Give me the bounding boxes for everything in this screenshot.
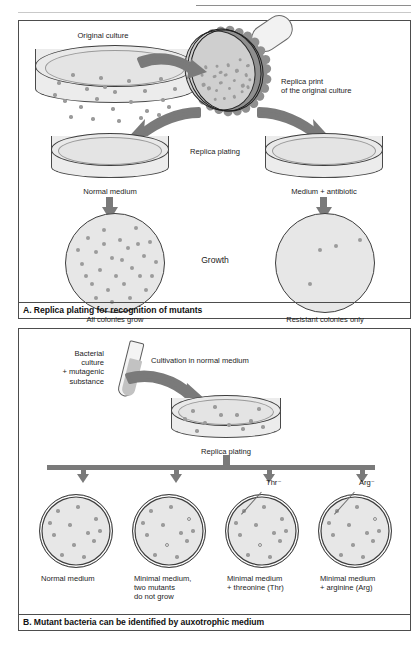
colony bbox=[106, 288, 110, 292]
distribution-arrow-bar bbox=[41, 461, 391, 493]
dish-4 bbox=[318, 494, 392, 568]
label-growth: Growth bbox=[201, 256, 229, 265]
colony bbox=[127, 79, 130, 82]
colony bbox=[102, 242, 106, 246]
colony bbox=[165, 543, 169, 547]
page-number: 93 bbox=[402, 0, 411, 2]
label-all-colonies-grow: All colonies grow bbox=[87, 315, 144, 324]
colony bbox=[82, 555, 85, 558]
caption-divider bbox=[18, 302, 411, 303]
colony bbox=[134, 226, 138, 230]
colony bbox=[84, 274, 88, 278]
colony bbox=[76, 505, 79, 508]
colony bbox=[334, 244, 338, 248]
label-resistant-only: Resistant colonies only bbox=[286, 315, 364, 324]
colony bbox=[52, 533, 55, 536]
colony bbox=[365, 531, 368, 534]
header-rule-secondary bbox=[18, 12, 411, 13]
colony bbox=[79, 105, 82, 108]
label-normal-medium-a: Normal medium bbox=[83, 187, 137, 196]
caption-divider bbox=[18, 614, 411, 615]
colony bbox=[278, 539, 281, 542]
colony bbox=[191, 529, 194, 532]
dish-all-colonies-grow bbox=[65, 213, 165, 313]
label-medium-antibiotic: Medium + antibiotic bbox=[291, 187, 357, 196]
dish-agar bbox=[272, 137, 376, 165]
colony bbox=[145, 533, 148, 536]
colony bbox=[227, 423, 230, 426]
colony bbox=[69, 115, 72, 118]
colony bbox=[128, 296, 132, 300]
dish-medium-antibiotic bbox=[265, 133, 383, 181]
header-rule bbox=[196, 5, 411, 6]
colony bbox=[102, 228, 106, 232]
colony bbox=[195, 429, 198, 432]
colony bbox=[173, 87, 176, 90]
colony bbox=[234, 521, 237, 524]
colony bbox=[129, 100, 132, 103]
label-dish-3: Minimal medium + threonine (Thr) bbox=[227, 574, 284, 592]
colony bbox=[347, 523, 350, 526]
colony bbox=[249, 419, 252, 422]
panel-b-auxotrophic-medium: Bacterial culture + mutagenic substance … bbox=[18, 328, 411, 631]
arrow-to-stamp bbox=[137, 53, 211, 87]
label-replica-plating-a: Replica plating bbox=[190, 147, 240, 156]
colony bbox=[284, 529, 287, 532]
colony bbox=[187, 517, 191, 521]
colony bbox=[91, 117, 94, 120]
colony bbox=[191, 409, 194, 412]
colony bbox=[213, 405, 216, 408]
dish-resistant-colonies bbox=[275, 213, 375, 313]
colony bbox=[241, 427, 244, 430]
colony bbox=[56, 509, 59, 512]
panel-a-caption: A. Replica plating for recognition of mu… bbox=[23, 305, 202, 315]
colony bbox=[272, 531, 275, 534]
colony bbox=[94, 517, 97, 520]
dish-agar bbox=[58, 137, 162, 165]
colony bbox=[161, 523, 164, 526]
colony bbox=[94, 250, 98, 254]
colony bbox=[57, 81, 60, 84]
label-cultivation: Cultivation in normal medium bbox=[151, 356, 249, 365]
colony bbox=[358, 238, 362, 242]
label-dish-2: Minimal medium, two mutants do not grow bbox=[134, 574, 191, 602]
colony bbox=[60, 553, 63, 556]
colony bbox=[169, 505, 172, 508]
colony bbox=[371, 539, 374, 542]
bar-horizontal bbox=[47, 465, 375, 470]
colony bbox=[103, 85, 106, 88]
colony bbox=[110, 256, 114, 260]
colony bbox=[308, 282, 312, 286]
colony bbox=[150, 274, 154, 278]
colony bbox=[136, 242, 140, 246]
panel-b-caption: B. Mutant bacteria can be identified by … bbox=[23, 617, 264, 627]
label-original-culture: Original culture bbox=[77, 31, 128, 40]
colony bbox=[327, 521, 330, 524]
colony bbox=[94, 296, 98, 300]
colony bbox=[154, 260, 158, 264]
colony bbox=[268, 555, 271, 558]
colony bbox=[361, 555, 364, 558]
colony bbox=[377, 529, 380, 532]
dish-normal-medium bbox=[51, 133, 169, 181]
colony bbox=[219, 413, 222, 416]
branch-head-1 bbox=[77, 474, 89, 483]
colony bbox=[114, 274, 118, 278]
colony bbox=[68, 523, 71, 526]
colony bbox=[90, 282, 94, 286]
colony bbox=[203, 421, 206, 424]
colony bbox=[262, 505, 265, 508]
dish-cultivation bbox=[171, 395, 281, 441]
branch-head-2 bbox=[170, 474, 182, 483]
colony bbox=[141, 521, 144, 524]
dish-3 bbox=[225, 494, 299, 568]
colony bbox=[86, 531, 89, 534]
colony bbox=[76, 248, 80, 252]
colony bbox=[238, 533, 241, 536]
colony bbox=[161, 98, 164, 101]
colony bbox=[148, 240, 152, 244]
dish-1 bbox=[39, 494, 113, 568]
colony bbox=[280, 517, 283, 520]
colony bbox=[261, 425, 264, 428]
colony bbox=[331, 533, 334, 536]
